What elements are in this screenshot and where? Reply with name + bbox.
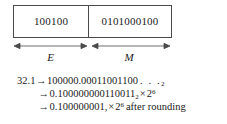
line1-radix-subscript: 2 [161,80,165,88]
derivation-line-2: →0.1000000001100112×26 [17,87,227,100]
rounding-note: after rounding [124,101,186,112]
line1-ellipsis: . . . [138,75,161,86]
line2-arrow-glyph: → [38,88,50,99]
rounded-mantissa: 0.100000001, [50,101,108,112]
mantissa-bits: 0101000100 [102,16,159,27]
mantissa-span-arrow-icon [92,43,170,48]
derivation-block: 32.1→100000.00011001100. . .2 →0.1000000… [17,74,227,113]
normalized-mantissa: 0.100000000110011 [50,88,136,99]
derivation-line-3: →0.100000001,×26after rounding [17,100,227,113]
field-labels: E M [13,50,172,66]
exponent-span-arrow-icon [14,43,87,48]
line3-times-glyph: × [107,101,115,112]
bit-field-box: 100100 0101000100 [13,5,172,38]
exponent-label: E [13,50,88,64]
decimal-value: 32.1 [17,75,35,86]
line3-arrow-glyph: → [38,101,50,112]
floating-point-figure: 100100 0101000100 [0,0,227,124]
line2-times-glyph: × [139,88,147,99]
binary-expansion: 100000.00011001100 [47,75,138,86]
exponent-bits: 100100 [34,16,68,27]
mantissa-label: M [88,50,170,64]
exponent-field-cell: 100100 [14,6,89,37]
line2-exponent-superscript: 6 [152,88,156,96]
derivation-line-1: 32.1→100000.00011001100. . .2 [17,74,227,87]
mantissa-field-cell: 0101000100 [89,6,171,37]
line1-arrow-glyph: → [35,75,47,86]
